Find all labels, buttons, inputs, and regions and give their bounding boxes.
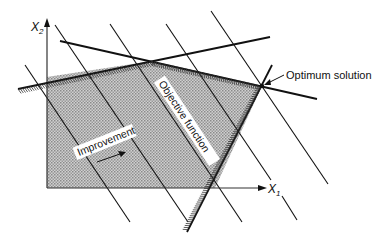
- y-axis-arrow: [44, 18, 50, 27]
- x-axis-label: X1: [267, 182, 280, 198]
- optimum-point: [260, 84, 264, 88]
- y-axis-label-sub: 2: [38, 27, 44, 36]
- x-axis-arrow: [258, 185, 267, 191]
- objective-line-4b: [282, 196, 297, 220]
- lp-diagram: Optimum solution Objective function Impr…: [0, 0, 379, 246]
- optimum-label: Optimum solution: [286, 69, 372, 81]
- y-axis-label: X2: [30, 20, 44, 36]
- x-axis-label-sub: 1: [276, 189, 280, 198]
